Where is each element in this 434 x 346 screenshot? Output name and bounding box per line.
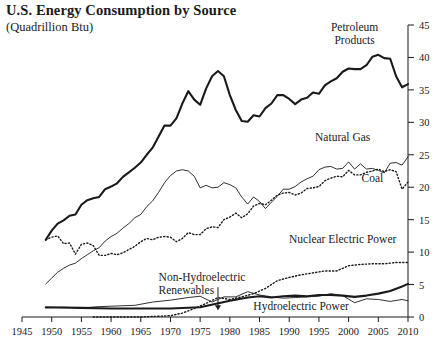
series-label-natural-gas: Natural Gas: [315, 131, 371, 143]
series-label-non-hydroelectric-renewables: Renewables: [159, 284, 215, 296]
chart-plot-area: 1945195019551960196519701975198019851990…: [0, 0, 434, 346]
series-line-hydroelectric-power: [46, 292, 408, 308]
x-tick-label: 1995: [308, 326, 329, 337]
y-tick-label: 0: [419, 312, 424, 323]
series-line-natural-gas: [46, 157, 408, 284]
x-tick-label: 2010: [398, 326, 419, 337]
series-label-non-hydroelectric-renewables: Non-Hydroelectric: [159, 271, 246, 284]
y-tick-label: 40: [419, 52, 430, 63]
series-label-petroleum-products: Petroleum: [331, 21, 378, 33]
series-line-petroleum-products: [46, 55, 408, 240]
y-tick-label: 45: [419, 20, 430, 31]
x-tick-label: 2000: [338, 326, 359, 337]
y-tick-label: 35: [419, 85, 430, 96]
series-label-coal: Coal: [362, 172, 384, 184]
chart-container: U.S. Energy Consumption by Source (Quadr…: [0, 0, 434, 346]
y-tick-label: 15: [419, 215, 430, 226]
y-tick-label: 25: [419, 150, 430, 161]
x-tick-label: 1960: [101, 326, 122, 337]
x-tick-label: 2005: [368, 326, 389, 337]
x-tick-label: 1950: [41, 326, 62, 337]
x-tick-label: 1970: [160, 326, 181, 337]
y-tick-label: 30: [419, 117, 430, 128]
series-line-non-hydroelectric-renewables: [46, 284, 408, 309]
series-label-hydroelectric-power: Hydroelectric Power: [253, 300, 349, 313]
y-tick-label: 20: [419, 182, 430, 193]
x-tick-label: 1955: [71, 326, 92, 337]
x-tick-label: 1990: [279, 326, 300, 337]
x-tick-label: 1985: [249, 326, 270, 337]
x-tick-label: 1945: [12, 326, 33, 337]
series-label-petroleum-products: Products: [334, 34, 375, 46]
x-tick-label: 1980: [219, 326, 240, 337]
series-label-nuclear-electric-power: Nuclear Electric Power: [289, 233, 396, 245]
annotation-arrow-head: [215, 305, 221, 310]
y-tick-label: 10: [419, 247, 430, 258]
x-tick-label: 1965: [130, 326, 151, 337]
y-tick-label: 5: [419, 280, 424, 291]
x-tick-label: 1975: [190, 326, 211, 337]
